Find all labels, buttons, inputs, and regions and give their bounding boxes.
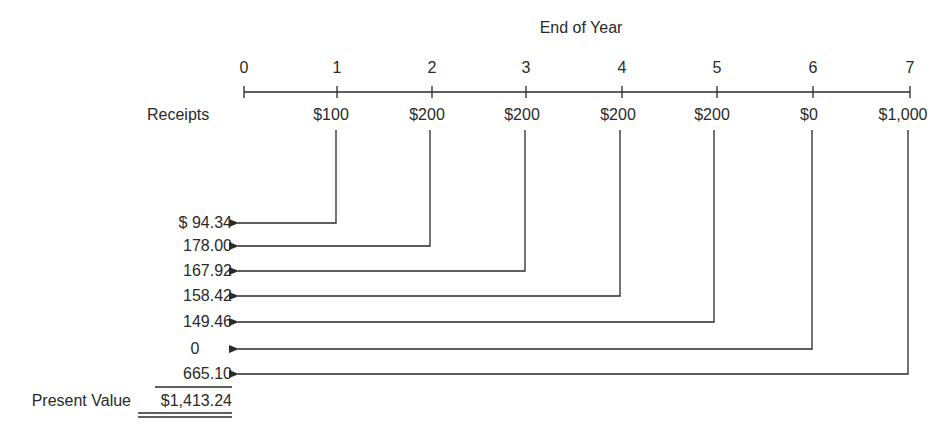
- discount-arrow-year-7: [238, 130, 908, 374]
- discount-arrow-year-2: [238, 130, 430, 246]
- discount-arrow-year-1: [238, 130, 336, 223]
- discount-arrow-year-3: [238, 130, 525, 271]
- discount-arrow-year-5: [238, 130, 714, 322]
- cash-flow-diagram: [0, 0, 947, 436]
